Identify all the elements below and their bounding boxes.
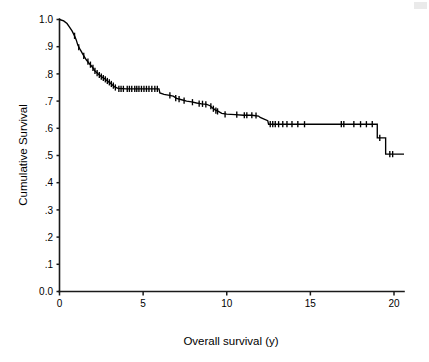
x-tick-label: 20 — [388, 298, 400, 309]
x-tick-label: 0 — [57, 298, 63, 309]
kaplan-meier-chart: 0.0.1.2.3.4.5.6.7.8.91.0 05101520 Overal… — [0, 0, 429, 362]
x-axis-title: Overall survival (y) — [183, 335, 278, 347]
x-tick-label: 10 — [221, 298, 233, 309]
y-tick-label: .9 — [45, 41, 54, 52]
y-tick-label: .7 — [45, 96, 54, 107]
chart-background — [0, 0, 429, 362]
figure-root: 0.0.1.2.3.4.5.6.7.8.91.0 05101520 Overal… — [0, 0, 429, 362]
y-tick-label: .4 — [45, 177, 54, 188]
y-tick-label: 1.0 — [39, 14, 53, 25]
y-tick-label: 0.0 — [39, 286, 53, 297]
y-tick-label: .8 — [45, 69, 54, 80]
y-tick-label: .1 — [45, 259, 54, 270]
x-tick-label: 5 — [140, 298, 146, 309]
scan-artifact — [414, 2, 427, 9]
y-tick-label: .3 — [45, 205, 54, 216]
y-tick-label: .5 — [45, 150, 54, 161]
y-tick-label: .2 — [45, 232, 54, 243]
x-tick-label: 15 — [305, 298, 317, 309]
y-axis-title: Cumulative Survival — [17, 104, 29, 206]
y-tick-label: .6 — [45, 123, 54, 134]
